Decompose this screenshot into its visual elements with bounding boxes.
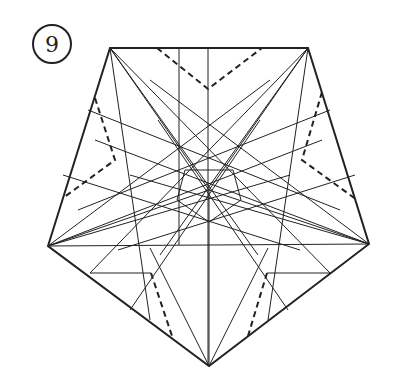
dashed-fold-line (151, 273, 172, 336)
crease-line (118, 175, 355, 250)
crease-line (48, 190, 209, 246)
step-number-badge: 9 (32, 24, 72, 64)
crease-line (63, 175, 300, 250)
step-number: 9 (45, 32, 59, 57)
crease-line (177, 170, 185, 200)
dashed-fold-line (302, 92, 357, 200)
crease-line (150, 248, 209, 366)
crease-line (233, 170, 241, 200)
crease-line (110, 48, 330, 273)
crease-line (150, 80, 369, 244)
crease-line (209, 248, 268, 366)
crease-line (209, 190, 369, 244)
dashed-fold-line (157, 48, 262, 89)
valley-fold-lines (63, 48, 357, 336)
crease-line (130, 120, 260, 310)
crease-line (48, 80, 270, 246)
